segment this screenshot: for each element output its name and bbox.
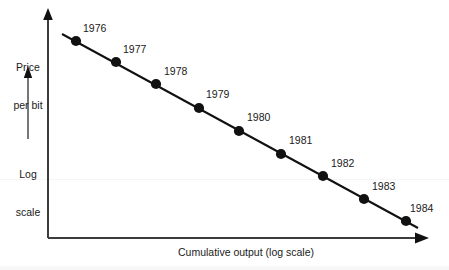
y-axis-title-line-2: per bit [0,99,56,112]
data-point-marker [359,194,369,204]
data-point-label: 1984 [410,202,433,214]
data-point-label: 1977 [123,43,146,55]
y-axis-scale-note-line-1: Log [0,168,56,181]
y-axis-arrow-icon [43,8,53,20]
data-point-marker [276,149,286,159]
axes-group [43,8,429,243]
x-axis-arrow-icon [415,233,429,244]
y-axis-scale-note: Log scale [0,143,56,243]
data-point-marker [71,36,81,46]
data-point-label: 1979 [206,88,229,100]
data-point-label: 1980 [247,111,270,123]
data-point-marker [194,103,204,113]
price-per-bit-series [62,34,418,228]
data-point-label: 1983 [372,180,395,192]
chart-plot-area [0,0,449,270]
y-axis-scale-note-line-2: scale [0,206,56,219]
data-point-marker [401,216,411,226]
data-point-marker [234,126,244,136]
y-axis-title-line-1: Price [0,61,56,74]
data-point-label: 1978 [164,65,187,77]
experience-curve-chart: Price per bit Log scale Cumulative outpu… [0,0,449,270]
data-point-marker [318,171,328,181]
data-point-label: 1976 [83,22,106,34]
data-point-marker [151,79,161,89]
y-axis-title: Price per bit [0,36,56,136]
x-axis-title: Cumulative output (log scale) [96,246,396,258]
data-point-label: 1982 [331,157,354,169]
data-point-marker [111,57,121,67]
data-point-label: 1981 [289,134,312,146]
